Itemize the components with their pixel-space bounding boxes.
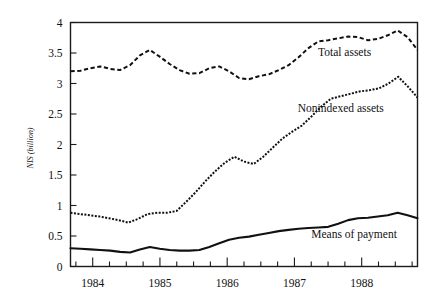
y-tick-label-1.5: 1.5: [48, 169, 63, 181]
y-tick-label-0.5: 0.5: [48, 230, 63, 242]
x-tick-label-1987: 1987: [283, 277, 306, 289]
series-line-nonindexed-assets: [71, 77, 418, 223]
series-annotations: Total assetsNonindexed assetsMeans of pa…: [298, 46, 398, 241]
x-tick-label-1984: 1984: [81, 277, 104, 289]
chart-figure: 00.511.522.533.54 19841985198619871988 N…: [0, 0, 439, 308]
y-axis-tick-labels: 00.511.522.533.54: [48, 17, 63, 273]
y-tick-label-0: 0: [57, 261, 63, 273]
y-tick-label-2.5: 2.5: [48, 108, 63, 120]
y-tick-label-2: 2: [57, 139, 63, 151]
x-axis-tick-labels: 19841985198619871988: [81, 277, 373, 289]
x-tick-label-1986: 1986: [216, 277, 239, 289]
line-chart: 00.511.522.533.54 19841985198619871988 N…: [0, 0, 439, 308]
y-tick-label-3.5: 3.5: [48, 47, 63, 59]
y-axis-title: NIS (billion): [26, 127, 35, 169]
x-tick-label-1985: 1985: [148, 277, 171, 289]
series-label-nonindexed-assets: Nonindexed assets: [298, 102, 384, 114]
series-label-total-assets: Total assets: [318, 46, 372, 58]
x-axis-ticks: [76, 258, 412, 267]
y-axis-title-label: NIS (billion): [26, 127, 35, 169]
series-lines: [71, 30, 418, 252]
y-tick-label-3: 3: [57, 78, 63, 90]
y-axis-ticks: [71, 23, 77, 267]
series-label-means-of-payment: Means of payment: [311, 228, 397, 241]
y-tick-label-4: 4: [57, 17, 63, 29]
x-tick-label-1988: 1988: [350, 277, 373, 289]
y-tick-label-1: 1: [57, 200, 63, 212]
